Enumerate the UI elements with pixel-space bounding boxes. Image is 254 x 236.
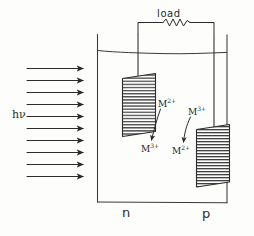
species-charge: 3+ <box>197 105 206 112</box>
species-label-p-top: M3+ <box>188 108 206 117</box>
photon-energy-label: hν <box>12 109 26 120</box>
figure-drawing-canvas <box>0 0 254 236</box>
liquid-level-line <box>98 51 228 54</box>
electrode-p <box>197 125 230 188</box>
electrode-n-label: n <box>122 206 130 219</box>
species-charge: 2+ <box>167 97 176 104</box>
species-symbol: M <box>141 144 150 154</box>
species-symbol: M <box>158 99 167 109</box>
resistor-zigzag <box>163 19 190 26</box>
species-charge: 3+ <box>150 142 159 149</box>
arrow-p-reduction <box>184 117 191 142</box>
load-label: load <box>157 9 181 19</box>
electrode-p-label: p <box>202 207 210 220</box>
redox-arrows <box>152 109 191 142</box>
species-label-p-bottom: M2+ <box>172 147 190 156</box>
photoelectrochemical-cell-figure: load hν M2+ M3+ M3+ M2+ n p <box>0 0 254 236</box>
species-symbol: M <box>188 107 197 117</box>
species-charge: 2+ <box>181 144 190 151</box>
species-label-n-bottom: M3+ <box>141 145 159 154</box>
illumination-arrows <box>27 69 83 177</box>
electrode-n <box>123 74 156 137</box>
species-symbol: M <box>172 146 181 156</box>
species-label-n-top: M2+ <box>158 100 176 109</box>
